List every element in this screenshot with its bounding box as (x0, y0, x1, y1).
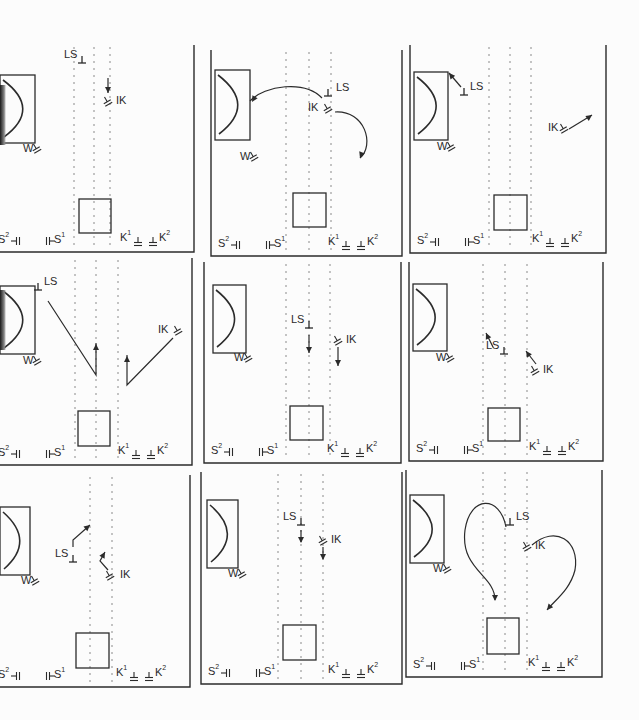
player-s2-icon (426, 662, 435, 670)
movement-path (465, 503, 506, 600)
label-k2: K2 (157, 442, 168, 456)
label-k2: K2 (159, 229, 170, 243)
label-s2: S2 (417, 232, 428, 246)
label-ik: IK (120, 569, 130, 580)
player-ik-icon (528, 364, 539, 375)
player-k2-icon (561, 238, 569, 247)
label-s1: S1 (264, 663, 275, 677)
label-s1: S1 (267, 442, 278, 456)
label-ik: IK (535, 540, 545, 551)
label-w: W (437, 141, 447, 152)
center-square (283, 625, 316, 660)
player-s2-icon (224, 448, 233, 456)
center-square (78, 411, 110, 446)
player-s2-icon (231, 241, 240, 249)
player-k2-icon (557, 662, 565, 671)
goal-arc (413, 500, 432, 557)
movement-path (48, 301, 96, 375)
label-ik: IK (548, 122, 558, 133)
label-k1: K1 (120, 229, 131, 243)
player-k2-icon (356, 448, 364, 457)
center-square (79, 199, 111, 233)
label-ls: LS (516, 511, 529, 522)
field-diagram-f: LSIKWS2S1K1K2 (408, 262, 604, 462)
label-ik: IK (308, 102, 318, 113)
player-k2-icon (149, 237, 157, 246)
arrowhead-icon (306, 347, 312, 353)
player-s2-icon (11, 237, 20, 245)
player-s2-icon (429, 446, 438, 454)
label-s1: S1 (472, 440, 483, 454)
arrowhead-icon (124, 356, 130, 362)
scan-shadow (0, 85, 6, 145)
player-ls-icon (506, 518, 514, 525)
label-w: W (234, 352, 244, 363)
goal-box (0, 507, 30, 575)
label-ls: LS (44, 276, 57, 287)
goal-arc (416, 289, 435, 345)
label-s1: S1 (274, 235, 285, 249)
label-s2: S2 (416, 440, 427, 454)
goal-box (413, 284, 447, 351)
label-ik: IK (346, 334, 356, 345)
player-k2-icon (145, 672, 153, 681)
label-w: W (23, 143, 33, 154)
label-ls: LS (283, 511, 296, 522)
label-s1: S1 (54, 666, 65, 680)
goal-arc (216, 290, 235, 347)
label-w: W (240, 151, 250, 162)
label-k2: K2 (367, 233, 378, 247)
player-k1-icon (130, 672, 138, 681)
arrowhead-icon (99, 551, 107, 559)
player-ls-icon (69, 555, 77, 562)
arrowhead-icon (492, 595, 498, 601)
goal-box (410, 495, 444, 563)
player-s2-icon (11, 672, 20, 680)
label-s2: S2 (208, 663, 219, 677)
player-ls-icon (305, 321, 313, 328)
label-k2: K2 (568, 438, 579, 452)
player-ik-icon (331, 334, 342, 345)
label-k1: K1 (328, 661, 339, 675)
label-s1: S1 (54, 231, 65, 245)
label-k2: K2 (567, 654, 578, 668)
center-square (487, 618, 519, 654)
player-k1-icon (543, 446, 551, 455)
label-s1: S1 (54, 444, 65, 458)
player-ls-icon (78, 56, 86, 63)
center-square (494, 195, 527, 230)
label-s2: S2 (218, 235, 229, 249)
field-diagram-c: LSIKWS2S1K1K2 (409, 45, 607, 254)
label-k1: K1 (529, 438, 540, 452)
field-diagram-a: LSIKWS2S1K1K2 (0, 45, 195, 253)
movement-path (335, 112, 367, 158)
field-diagram-b: LSIKWS2S1K1K2 (210, 50, 403, 257)
center-square (76, 633, 109, 668)
player-k1-icon (342, 669, 350, 678)
goal-arc (210, 505, 227, 562)
player-ls-icon (500, 347, 508, 354)
goal-arc (417, 77, 436, 134)
label-ls: LS (291, 314, 304, 325)
player-ik-icon (520, 540, 531, 551)
player-k1-icon (132, 450, 140, 459)
goal-arc (3, 512, 20, 569)
field-diagram-i: LSIKWS2S1K1K2 (405, 470, 603, 678)
label-ik: IK (116, 95, 126, 106)
player-s2-icon (221, 669, 230, 677)
center-square (290, 406, 323, 440)
label-k1: K1 (528, 654, 539, 668)
player-k2-icon (357, 669, 365, 678)
player-ls-icon (297, 518, 305, 525)
field-diagram-h: LSIKWS2S1K1K2 (200, 472, 403, 685)
player-ik-icon (316, 534, 327, 545)
label-k2: K2 (155, 664, 166, 678)
label-k2: K2 (366, 440, 377, 454)
player-s2-icon (430, 238, 439, 246)
center-square (488, 408, 520, 441)
player-ik-icon (103, 569, 114, 580)
label-ls: LS (336, 82, 349, 93)
player-k1-icon (546, 238, 554, 247)
player-ik-icon (171, 324, 182, 335)
arrowhead-icon (320, 554, 326, 560)
